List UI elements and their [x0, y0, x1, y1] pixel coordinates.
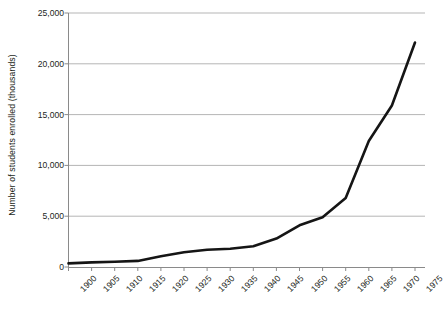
x-axis-tick-label: 1950	[309, 274, 329, 294]
x-axis-tick-label: 1925	[194, 274, 214, 294]
x-axis-tick-label: 1945	[286, 274, 306, 294]
x-axis-tick-label: 1940	[263, 274, 283, 294]
x-axis-tick-label: 1975	[425, 274, 445, 294]
x-axis-tick-label: 1960	[355, 274, 375, 294]
x-axis-tick-label: 1935	[240, 274, 260, 294]
x-axis-tick-label: 1920	[170, 274, 190, 294]
x-axis-tick-label: 1955	[332, 274, 352, 294]
x-axis-tick-label: 1905	[101, 274, 121, 294]
x-axis-tick-label: 1970	[401, 274, 421, 294]
x-axis-tick-label: 1965	[378, 274, 398, 294]
x-axis-tick-label: 1915	[147, 274, 167, 294]
x-axis-tick-label: 1910	[124, 274, 144, 294]
x-axis-tick-label: 1930	[217, 274, 237, 294]
x-axis-tick-label: 1900	[78, 274, 98, 294]
